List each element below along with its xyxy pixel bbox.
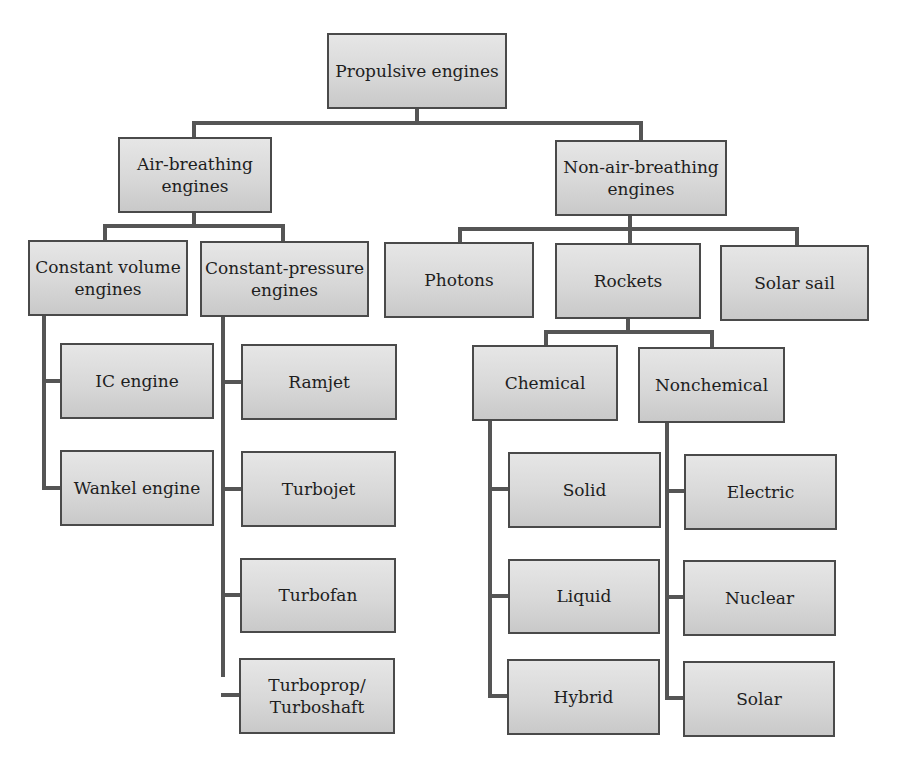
node-constant-volume-engines: Constant volume engines (28, 240, 188, 316)
connector (42, 486, 61, 490)
connector (628, 227, 632, 244)
node-constant-pressure-engines: Constant-pressure engines (200, 241, 369, 317)
node-nonchemical: Nonchemical (638, 347, 785, 423)
node-solar: Solar (683, 661, 835, 737)
connector (544, 330, 548, 346)
connector (665, 489, 684, 493)
node-turbojet: Turbojet (241, 451, 396, 527)
connector (488, 594, 509, 598)
node-propulsive-engines: Propulsive engines (327, 33, 507, 109)
connector (221, 487, 242, 491)
connector (281, 224, 285, 242)
node-nuclear: Nuclear (683, 560, 836, 636)
connector (488, 694, 509, 698)
node-air-breathing-engines: Air-breathing engines (118, 137, 272, 213)
connector (665, 696, 684, 700)
node-ic-engine: IC engine (60, 343, 214, 419)
node-turboprop-turboshaft: Turboprop/ Turboshaft (239, 658, 395, 734)
connector (192, 121, 643, 125)
connector (42, 379, 61, 383)
connector (221, 593, 242, 597)
propulsive-engines-diagram: Propulsive engines Air-breathing engines… (0, 0, 913, 758)
node-liquid: Liquid (508, 559, 660, 634)
node-wankel-engine: Wankel engine (60, 450, 214, 526)
connector (544, 330, 712, 334)
node-hybrid: Hybrid (507, 659, 660, 735)
connector (488, 487, 509, 491)
connector (665, 595, 684, 599)
node-non-air-breathing-engines: Non-air-breathing engines (555, 140, 727, 216)
connector (103, 224, 285, 228)
node-solar-sail: Solar sail (720, 245, 869, 321)
connector (458, 227, 462, 243)
node-chemical: Chemical (472, 345, 618, 421)
node-solid: Solid (508, 452, 661, 528)
connector (103, 224, 107, 241)
connector (795, 227, 799, 246)
node-rockets: Rockets (555, 243, 701, 319)
connector (639, 121, 643, 141)
connector (221, 380, 242, 384)
connector (488, 419, 492, 698)
node-electric: Electric (684, 454, 837, 530)
connector (192, 121, 196, 138)
node-turbofan: Turbofan (240, 558, 396, 633)
node-photons: Photons (384, 242, 534, 318)
connector (42, 314, 46, 490)
node-ramjet: Ramjet (241, 344, 397, 420)
connector (221, 315, 225, 677)
connector (665, 421, 669, 700)
connector (710, 330, 714, 348)
